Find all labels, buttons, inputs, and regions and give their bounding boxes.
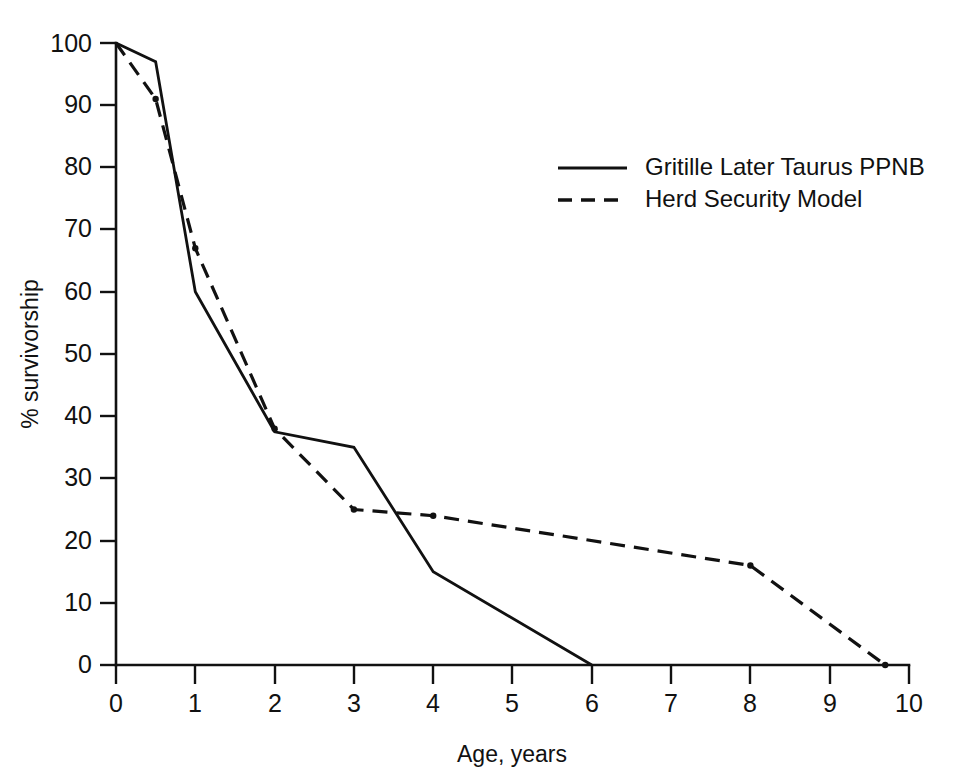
y-tick-label-40: 40: [64, 401, 92, 429]
data-point-marker: [882, 662, 888, 668]
legend: Gritille Later Taurus PPNB Herd Security…: [558, 153, 925, 212]
data-point-marker: [271, 425, 277, 431]
data-point-marker: [152, 96, 158, 102]
x-tick-label-5: 5: [505, 689, 519, 717]
x-tick-label-0: 0: [109, 689, 123, 717]
x-axis-tick-labels: 0 1 2 3 4 5 6 7 8 9 10: [109, 689, 923, 717]
y-tick-label-30: 30: [64, 463, 92, 491]
y-tick-label-100: 100: [50, 29, 92, 57]
legend-entry-gritille-later-taurus-ppnb: Gritille Later Taurus PPNB: [558, 153, 925, 180]
x-tick-label-6: 6: [585, 689, 599, 717]
x-axis-ticks: [116, 665, 909, 684]
x-tick-label-8: 8: [743, 689, 757, 717]
data-point-marker: [430, 513, 436, 519]
x-tick-label-2: 2: [268, 689, 282, 717]
data-point-marker: [192, 245, 198, 251]
legend-label-1: Herd Security Model: [645, 185, 862, 212]
y-tick-label-10: 10: [64, 588, 92, 616]
y-axis-ticks: [100, 43, 116, 665]
data-point-marker: [351, 506, 357, 512]
y-tick-label-50: 50: [64, 339, 92, 367]
survivorship-chart: 100 90 80 70 60 50 40 30 20 10 0: [0, 0, 957, 780]
y-tick-label-90: 90: [64, 90, 92, 118]
y-axis-tick-labels: 100 90 80 70 60 50 40 30 20 10 0: [50, 29, 92, 678]
x-tick-label-10: 10: [895, 689, 923, 717]
y-tick-label-60: 60: [64, 277, 92, 305]
y-tick-label-80: 80: [64, 152, 92, 180]
y-tick-label-70: 70: [64, 214, 92, 242]
y-tick-label-20: 20: [64, 526, 92, 554]
x-tick-label-4: 4: [426, 689, 440, 717]
data-point-marker: [747, 562, 753, 568]
legend-entry-herd-security-model: Herd Security Model: [558, 185, 862, 212]
legend-label-0: Gritille Later Taurus PPNB: [645, 153, 925, 180]
x-tick-label-1: 1: [188, 689, 202, 717]
x-tick-label-3: 3: [347, 689, 361, 717]
x-tick-label-7: 7: [664, 689, 678, 717]
x-tick-label-9: 9: [823, 689, 837, 717]
series-line-gritille-later-taurus-ppnb: [116, 43, 592, 665]
chart-canvas: 100 90 80 70 60 50 40 30 20 10 0: [0, 0, 957, 780]
series-markers-herd-security-model: [152, 96, 888, 668]
y-axis-title: % survivorship: [17, 279, 43, 429]
y-tick-label-0: 0: [78, 650, 92, 678]
x-axis-title: Age, years: [457, 741, 567, 767]
